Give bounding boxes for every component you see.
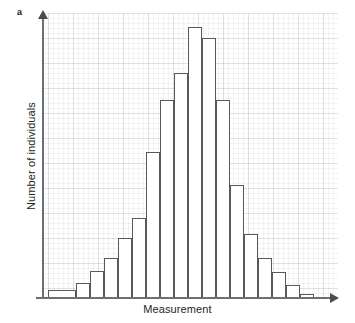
x-axis-line — [36, 297, 332, 299]
histogram-bar — [76, 283, 90, 298]
histogram-bar — [90, 271, 104, 298]
histogram-bar — [230, 185, 244, 298]
y-axis-line — [42, 18, 44, 299]
histogram-figure: a Measurement Number of individuals — [0, 0, 355, 323]
histogram-bar — [174, 73, 188, 298]
y-axis-title: Number of individuals — [25, 76, 37, 236]
histogram-bar — [272, 272, 286, 298]
x-axis-arrow-icon — [330, 293, 339, 303]
histogram-bar — [188, 27, 202, 298]
histogram-bar — [244, 234, 258, 298]
histogram-bar — [118, 238, 132, 298]
histogram-bar — [160, 100, 174, 298]
x-axis-title: Measurement — [0, 303, 355, 315]
histogram-bar — [216, 100, 230, 298]
y-axis-arrow-icon — [38, 10, 48, 19]
histogram-bar — [132, 218, 146, 298]
histogram-bar — [202, 38, 216, 298]
histogram-bar — [104, 258, 118, 298]
histogram-bar — [146, 152, 160, 298]
histogram-bar — [258, 258, 272, 298]
histogram-bars — [0, 0, 355, 323]
